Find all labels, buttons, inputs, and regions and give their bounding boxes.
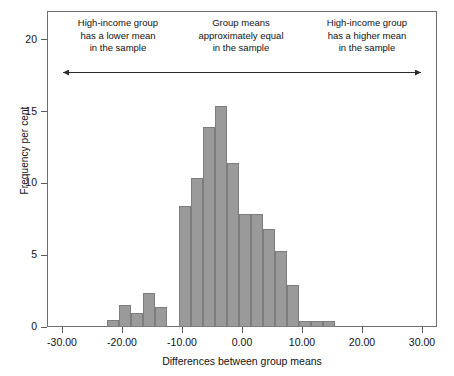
histogram-figure: Frequency per cent 05101520 -30.00-20.00… (0, 0, 454, 376)
double-headed-arrow-icon (0, 0, 454, 376)
